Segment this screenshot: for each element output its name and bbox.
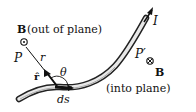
angle-theta-label: θ (60, 66, 67, 79)
biot-savart-diagram: B (out of plane) P r r̂ θ ds I P′ B (int… (0, 0, 196, 112)
into-plane-symbol-icon (147, 58, 153, 64)
point-p-prime-label: P′ (134, 47, 146, 61)
element-ds-label: ds (57, 93, 70, 106)
b-out-label-text: (out of plane) (27, 23, 102, 36)
point-p-label: P (13, 51, 23, 65)
distance-r-label: r (40, 51, 46, 64)
b-in-label-text: (into plane) (106, 82, 170, 95)
current-i-label: I (152, 14, 158, 28)
r-hat-arrow-icon (44, 69, 57, 86)
unit-vector-r-label: r̂ (34, 71, 40, 82)
b-out-label-bold: B (17, 23, 26, 36)
out-of-plane-symbol-icon (21, 39, 27, 45)
b-in-label-bold: B (155, 66, 164, 79)
